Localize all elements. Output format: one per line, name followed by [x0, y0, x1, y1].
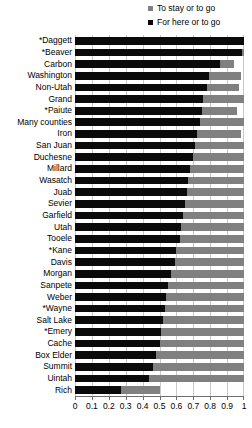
x-axis-tick [126, 396, 127, 400]
bar-for-here-or-to-go [75, 212, 183, 220]
bar-for-here-or-to-go [75, 328, 161, 336]
x-axis-tick [193, 396, 194, 400]
y-axis-label: Sanpete [0, 280, 72, 290]
x-axis-tick-label: 0 [73, 401, 78, 411]
x-axis-tick-label: 0.4 [137, 401, 149, 411]
bar-for-here-or-to-go [75, 49, 242, 57]
y-axis-label: Morgan [0, 268, 72, 278]
bar-row [75, 258, 244, 266]
bar-for-here-or-to-go [75, 84, 207, 92]
x-axis-tick-label: 0.8 [204, 401, 216, 411]
bar-row [75, 351, 244, 359]
y-axis-label: *Kane [0, 245, 72, 255]
bar-for-here-or-to-go [75, 200, 185, 208]
bar-row [75, 107, 244, 115]
y-axis-label: Iron [0, 128, 72, 138]
bar-row [75, 49, 244, 57]
bar-row [75, 316, 244, 324]
chart-legend: To stay or to go For here or to go [148, 2, 252, 30]
bar-row [75, 177, 244, 185]
bar-row [75, 37, 244, 45]
x-axis-tick-label: 0.7 [187, 401, 199, 411]
bar-row [75, 305, 244, 313]
bar-row [75, 293, 244, 301]
x-axis-tick [109, 396, 110, 400]
y-axis-labels: *Daggett*BeaverCarbonWashingtonNon-UtahG… [0, 35, 72, 396]
y-axis-label: Summit [0, 361, 72, 371]
y-axis-label: Salt Lake [0, 315, 72, 325]
legend-swatch-gray [148, 6, 153, 11]
y-axis-label: *Daggett [0, 35, 72, 45]
bar-for-here-or-to-go [75, 188, 187, 196]
bar-for-here-or-to-go [75, 386, 121, 394]
bar-row [75, 153, 244, 161]
bar-row [75, 72, 244, 80]
bar-for-here-or-to-go [75, 223, 181, 231]
bar-row [75, 84, 244, 92]
bar-for-here-or-to-go [75, 37, 244, 45]
legend-item-for-here-or-to-go: For here or to go [148, 16, 252, 28]
bar-row [75, 363, 244, 371]
y-axis-label: Uintah [0, 373, 72, 383]
y-axis-label: Carbon [0, 59, 72, 69]
y-axis-label: Utah [0, 222, 72, 232]
plot-area [75, 35, 244, 396]
legend-label-for-here-or-to-go: For here or to go [157, 17, 220, 27]
bar-row [75, 282, 244, 290]
x-axis-tick [210, 396, 211, 400]
bar-row [75, 247, 244, 255]
bar-row [75, 130, 244, 138]
y-axis-label: Garfield [0, 210, 72, 220]
x-axis-tick [176, 396, 177, 400]
bar-row [75, 375, 244, 383]
bar-row [75, 223, 244, 231]
bar-for-here-or-to-go [75, 235, 180, 243]
bar-row [75, 386, 244, 394]
bar-for-here-or-to-go [75, 363, 153, 371]
bar-for-here-or-to-go [75, 351, 156, 359]
x-axis-tick-label: 0.9 [221, 401, 233, 411]
bar-row [75, 212, 244, 220]
legend-label-to-stay-or-to-go: To stay or to go [157, 3, 215, 13]
bar-for-here-or-to-go [75, 130, 197, 138]
x-axis-tick-label: 0.3 [120, 401, 132, 411]
y-axis-label: Grand [0, 94, 72, 104]
bar-for-here-or-to-go [75, 72, 209, 80]
x-axis-tick [143, 396, 144, 400]
x-axis-tick-label: 1 [242, 401, 247, 411]
y-axis-label: Non-Utah [0, 82, 72, 92]
bar-for-here-or-to-go [75, 177, 188, 185]
bar-for-here-or-to-go [75, 340, 160, 348]
bar-rows [75, 35, 244, 396]
y-axis-label: Juab [0, 187, 72, 197]
y-axis-label: Weber [0, 292, 72, 302]
y-axis-label: Duchesne [0, 152, 72, 162]
y-axis-label: Sevier [0, 198, 72, 208]
bar-row [75, 340, 244, 348]
x-axis-tick [227, 396, 228, 400]
bar-for-here-or-to-go [75, 247, 176, 255]
y-axis-label: *Paiute [0, 105, 72, 115]
y-axis-label: Tooele [0, 233, 72, 243]
x-axis-tick [75, 396, 76, 400]
x-axis-tick-labels: 00.10.20.30.40.50.60.70.80.91 [75, 401, 244, 415]
y-axis-label: Many counties [0, 117, 72, 127]
bar-row [75, 270, 244, 278]
bar-row [75, 142, 244, 150]
x-axis-tick-label: 0.2 [103, 401, 115, 411]
bar-row [75, 95, 244, 103]
y-axis-label: *Beaver [0, 47, 72, 57]
y-axis-label: *Emery [0, 326, 72, 336]
y-axis-label: San Juan [0, 140, 72, 150]
x-axis-tick [92, 396, 93, 400]
x-axis-tick-label: 0.5 [154, 401, 166, 411]
legend-swatch-dark [148, 20, 153, 25]
bar-for-here-or-to-go [75, 316, 163, 324]
bar-for-here-or-to-go [75, 142, 195, 150]
x-axis-tick-label: 0.6 [170, 401, 182, 411]
bar-row [75, 165, 244, 173]
bar-for-here-or-to-go [75, 153, 193, 161]
bar-for-here-or-to-go [75, 165, 190, 173]
bar-row [75, 235, 244, 243]
bar-row [75, 60, 244, 68]
